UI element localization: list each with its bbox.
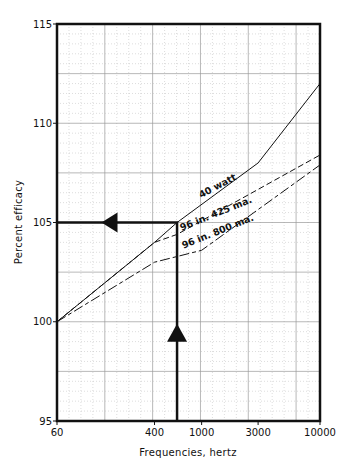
y-tick-label: 115 — [33, 19, 52, 30]
x-tick-label: 10000 — [304, 427, 336, 438]
x-tick-label: 1000 — [189, 427, 214, 438]
y-ticks: 95100105110115 — [33, 19, 57, 427]
x-ticks: 604001000300010000 — [51, 421, 336, 438]
arrow-left-icon — [101, 213, 117, 233]
x-tick-label: 3000 — [245, 427, 270, 438]
y-axis-label: Percent efficacy — [13, 180, 24, 265]
y-tick-label: 110 — [33, 118, 52, 129]
y-tick-label: 105 — [33, 217, 52, 228]
arrow-up-icon — [167, 324, 187, 342]
x-tick-label: 400 — [145, 427, 164, 438]
annotation-marker — [57, 213, 187, 422]
y-tick-label: 95 — [39, 416, 52, 427]
x-tick-label: 60 — [51, 427, 64, 438]
curve-label: 40 watt — [197, 171, 239, 200]
y-tick-label: 100 — [33, 316, 52, 327]
efficacy-chart: 604001000300010000 95100105110115 Freque… — [0, 0, 351, 468]
x-axis-label: Frequencies, hertz — [139, 447, 236, 458]
